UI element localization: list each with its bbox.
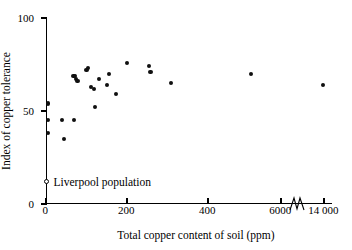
y-tick: 100 [41,17,47,18]
y-axis-title: Index of copper tolerance [0,18,14,204]
legend-open-circle-icon [44,179,49,184]
axis-break-icon [287,195,307,213]
scatter-chart-figure: Index of copper tolerance Total copper c… [0,0,352,250]
data-point [75,79,79,83]
y-tick: 50 [41,110,47,111]
data-point [125,61,129,65]
data-point [46,131,50,135]
data-point [147,64,151,68]
data-point [72,118,76,122]
y-tick-label: 0 [29,198,35,209]
data-point [114,92,118,96]
data-point [97,77,101,81]
data-point [92,87,96,91]
legend-label: Liverpool population [54,176,151,188]
data-point [46,101,50,105]
data-point [60,118,64,122]
data-point [93,105,97,109]
data-point [62,137,66,141]
y-tick-label: 100 [18,13,35,24]
data-point [321,83,325,87]
x-tick: 400 [207,198,208,204]
data-point [169,81,173,85]
data-point [249,72,253,76]
x-tick: 0 [45,198,46,204]
y-tick-label: 50 [23,105,34,116]
x-tick-label: 0 [43,205,49,216]
data-point [46,118,50,122]
x-tick: 200 [126,198,127,204]
plot-area: 050100 0200400600014 000 Liverpool popul… [46,18,332,204]
x-tick-label: 200 [118,205,135,216]
data-point [86,66,90,70]
legend: Liverpool population [46,176,151,188]
x-tick-label: 14 000 [308,205,338,216]
x-axis-title: Total copper content of soil (ppm) [46,229,346,242]
data-point [148,70,152,74]
x-tick-label: 400 [199,205,216,216]
x-tick: 6000 [280,198,281,204]
x-tick: 14 000 [323,198,324,204]
data-point [105,83,109,87]
data-point [107,72,111,76]
